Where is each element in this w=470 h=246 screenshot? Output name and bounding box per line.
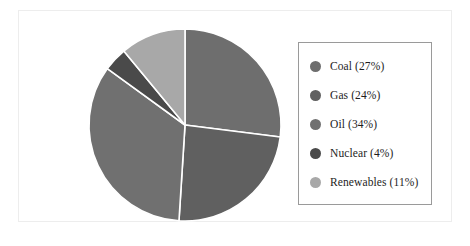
legend-item-label: Nuclear (4%) <box>330 148 393 160</box>
chart-legend: Coal (27%)Gas (24%)Oil (34%)Nuclear (4%)… <box>298 42 432 205</box>
legend-swatch-icon <box>310 148 321 159</box>
legend-item-label: Coal (27%) <box>330 61 384 73</box>
legend-item-label: Renewables (11%) <box>330 177 418 189</box>
pie-slice-gas[interactable] <box>179 125 280 221</box>
legend-swatch-icon <box>310 61 321 72</box>
legend-item-label: Gas (24%) <box>330 90 380 102</box>
legend-item-label: Oil (34%) <box>330 119 377 131</box>
legend-swatch-icon <box>310 177 321 188</box>
legend-item[interactable]: Coal (27%) <box>299 52 431 81</box>
legend-item[interactable]: Nuclear (4%) <box>299 139 431 168</box>
legend-swatch-icon <box>310 119 321 130</box>
legend-item[interactable]: Gas (24%) <box>299 81 431 110</box>
legend-swatch-icon <box>310 90 321 101</box>
figure-root: Coal (27%)Gas (24%)Oil (34%)Nuclear (4%)… <box>0 0 470 246</box>
legend-item[interactable]: Oil (34%) <box>299 110 431 139</box>
legend-item[interactable]: Renewables (11%) <box>299 168 431 197</box>
pie-chart-svg <box>85 25 285 225</box>
pie-slice-group <box>89 29 281 221</box>
pie-slice-coal[interactable] <box>185 29 281 137</box>
pie-chart <box>85 25 285 225</box>
